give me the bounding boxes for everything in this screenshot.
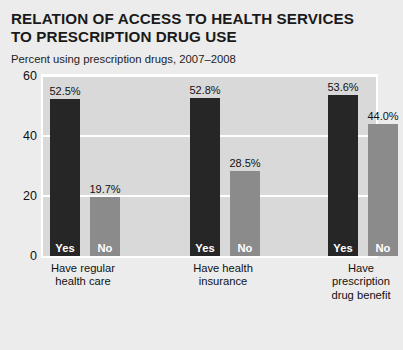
chart-title-line-1: RELATION OF ACCESS TO HEALTH SERVICES: [11, 10, 383, 28]
bar-value-label: 44.0%: [362, 110, 403, 122]
bar-no-group-2[interactable]: No: [368, 124, 398, 256]
category-label-1: Have healthinsurance: [163, 262, 283, 289]
bar-series-label: Yes: [190, 242, 220, 254]
x-axis-category-labels: Have regularhealth careHave healthinsura…: [41, 262, 378, 346]
bar-series-label: Yes: [328, 242, 358, 254]
chart-title-line-2: TO PRESCRIPTION DRUG USE: [11, 28, 383, 46]
bar-value-label: 52.5%: [44, 85, 86, 97]
bar-value-label: 19.7%: [84, 183, 126, 195]
category-label-line: Have regular: [23, 262, 143, 275]
bar-no-group-1[interactable]: No: [230, 171, 260, 257]
bar-yes-group-2[interactable]: Yes: [328, 95, 358, 256]
chart-title: RELATION OF ACCESS TO HEALTH SERVICES TO…: [11, 10, 383, 45]
y-axis-tick-label: 0: [0, 249, 37, 263]
bar-value-label: 53.6%: [322, 81, 364, 93]
category-label-2: Haveprescriptiondrug benefit: [301, 262, 403, 302]
category-label-line: health care: [23, 275, 143, 288]
y-axis-tick-label: 40: [0, 129, 37, 143]
category-label-line: Have health: [163, 262, 283, 275]
category-label-line: Have: [301, 262, 403, 275]
bar-series-label: Yes: [50, 242, 80, 254]
plot-area: Yes52.5%No19.7%Yes52.8%No28.5%Yes53.6%No…: [43, 76, 376, 256]
bar-value-label: 28.5%: [224, 157, 266, 169]
bar-series-label: No: [368, 242, 398, 254]
gridline: [43, 75, 376, 77]
y-axis-tick-label: 60: [0, 69, 37, 83]
plot-frame: Yes52.5%No19.7%Yes52.8%No28.5%Yes53.6%No…: [41, 74, 378, 258]
bar-series-label: No: [230, 242, 260, 254]
category-label-line: prescription: [301, 275, 403, 288]
bar-yes-group-1[interactable]: Yes: [190, 98, 220, 256]
bar-series-label: No: [90, 242, 120, 254]
bar-value-label: 52.8%: [184, 84, 226, 96]
bar-no-group-0[interactable]: No: [90, 197, 120, 256]
chart-subtitle: Percent using prescription drugs, 2007–2…: [11, 53, 236, 65]
category-label-line: insurance: [163, 275, 283, 288]
category-label-line: drug benefit: [301, 289, 403, 302]
bar-yes-group-0[interactable]: Yes: [50, 99, 80, 257]
y-axis-tick-label: 20: [0, 189, 37, 203]
category-label-0: Have regularhealth care: [23, 262, 143, 289]
